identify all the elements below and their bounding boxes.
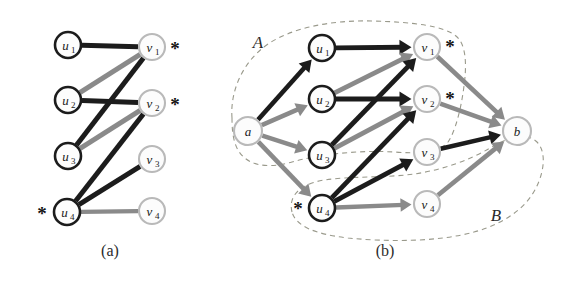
node-label: u xyxy=(62,149,69,164)
node-label-subscript: 4 xyxy=(155,211,160,221)
edge-u1-to-v1 xyxy=(82,45,138,46)
node-label: u xyxy=(61,205,68,220)
node-v2[interactable]: v2 xyxy=(139,90,165,116)
node-label-subscript: 3 xyxy=(71,156,76,166)
node-v1[interactable]: v1 xyxy=(414,34,440,60)
node-label-subscript: 3 xyxy=(155,159,160,169)
node-u2[interactable]: u2 xyxy=(309,86,335,112)
node-v2[interactable]: v2 xyxy=(414,86,440,112)
node-label-subscript: 2 xyxy=(155,103,160,113)
asterisk-marker-ast-v2: * xyxy=(170,94,180,115)
node-label-subscript: 2 xyxy=(430,99,435,109)
node-label-subscript: 3 xyxy=(325,155,330,165)
node-v3[interactable]: v3 xyxy=(139,146,165,172)
node-b[interactable]: b xyxy=(503,117,531,145)
node-label: u xyxy=(316,41,323,56)
node-label: v xyxy=(422,145,428,160)
node-label-subscript: 2 xyxy=(325,99,330,109)
node-label-subscript: 3 xyxy=(430,152,435,162)
node-u3[interactable]: u3 xyxy=(309,142,335,168)
node-v4[interactable]: v4 xyxy=(139,198,165,224)
node-label: u xyxy=(62,38,69,53)
node-label: u xyxy=(316,148,323,163)
edge-u2-to-v2 xyxy=(82,101,138,103)
node-label: u xyxy=(316,201,323,216)
node-label-subscript: 1 xyxy=(325,48,330,58)
asterisk-marker-ast-v1: * xyxy=(170,38,180,59)
node-a[interactable]: a xyxy=(234,117,262,145)
node-label-subscript: 4 xyxy=(70,212,75,222)
node-label: u xyxy=(62,93,69,108)
panel-a-caption: (a) xyxy=(101,242,119,260)
edge-u4-to-v4 xyxy=(81,211,138,212)
region-a-label: A xyxy=(252,33,264,52)
node-u3[interactable]: u3 xyxy=(55,143,81,169)
figure-root: u1u2u3u4v1v2v3v4***(a)ABau1u2u3u4v1v2v3v… xyxy=(0,0,565,286)
node-label-subscript: 2 xyxy=(71,100,76,110)
node-label-subscript: 4 xyxy=(430,204,435,214)
node-label: a xyxy=(245,124,252,139)
node-label: v xyxy=(422,197,428,212)
node-label: v xyxy=(147,96,153,111)
node-u2[interactable]: u2 xyxy=(55,87,81,113)
node-label-subscript: 1 xyxy=(155,47,160,57)
node-v3[interactable]: v3 xyxy=(414,139,440,165)
node-label: v xyxy=(422,92,428,107)
node-label-subscript: 1 xyxy=(430,47,435,57)
node-label: u xyxy=(316,92,323,107)
asterisk-marker-ast-u4: * xyxy=(37,203,47,224)
node-label: v xyxy=(147,204,153,219)
node-v4[interactable]: v4 xyxy=(414,191,440,217)
node-label: v xyxy=(422,40,428,55)
asterisk-marker-ast-v2: * xyxy=(445,88,455,109)
node-label-subscript: 1 xyxy=(71,45,76,55)
node-label: v xyxy=(147,40,153,55)
node-label-subscript: 4 xyxy=(325,208,330,218)
asterisk-marker-ast-u4: * xyxy=(293,198,303,219)
panel-b-caption: (b) xyxy=(376,242,395,260)
node-u4[interactable]: u4 xyxy=(309,195,335,221)
node-u1[interactable]: u1 xyxy=(55,32,81,58)
node-label: v xyxy=(147,152,153,167)
node-label: b xyxy=(514,124,521,139)
node-v1[interactable]: v1 xyxy=(139,34,165,60)
node-u4[interactable]: u4 xyxy=(54,199,80,225)
node-u1[interactable]: u1 xyxy=(309,35,335,61)
asterisk-marker-ast-v1: * xyxy=(445,36,455,57)
region-b-label: B xyxy=(491,206,502,225)
